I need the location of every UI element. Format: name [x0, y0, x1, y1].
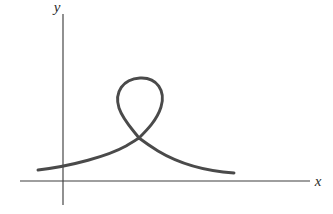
curve-figure-svg: x y: [0, 0, 333, 214]
y-axis-label: y: [52, 0, 61, 15]
x-axis-label: x: [314, 173, 322, 189]
parametric-curve: [38, 78, 234, 173]
figure-container: x y: [0, 0, 333, 214]
